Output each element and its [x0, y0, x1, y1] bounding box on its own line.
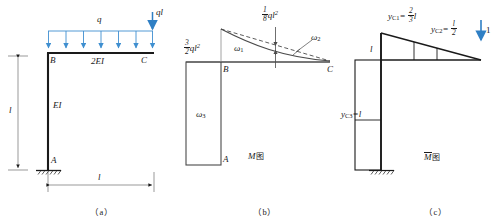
- label-m-diagram: M图: [248, 152, 264, 161]
- label-joint-b-a: B: [50, 56, 56, 65]
- label-dim-horizontal-l: l: [98, 173, 101, 182]
- label-dim-vertical-l: l: [9, 106, 12, 115]
- label-area-omega3: ω3: [196, 110, 206, 120]
- label-unit-load: 1: [486, 26, 491, 35]
- label-joint-c-a: C: [141, 56, 147, 65]
- label-point-load-ql: ql: [156, 8, 163, 17]
- label-end-moment: 3 2 ql2: [184, 39, 200, 56]
- label-area-omega1: ω1: [234, 44, 244, 54]
- fraction-l-over-two: l 2: [451, 20, 457, 37]
- label-beam-stiffness: 2EI: [91, 57, 104, 66]
- caption-a: （a）: [90, 205, 113, 217]
- label-height-l-c: l: [370, 45, 373, 54]
- label-distributed-load-q: q: [97, 15, 102, 24]
- label-yc1: yC1= 2 3 l: [388, 7, 416, 24]
- label-support-a: A: [51, 156, 57, 165]
- label-mbar-diagram: M图: [424, 152, 440, 162]
- label-yc2: yC2= l 2: [431, 20, 457, 37]
- panel-c-geometry: [355, 20, 481, 175]
- figure-root: q ql B C 2EI EI A l l （a） 1 8 ql2 3 2 ql…: [0, 0, 502, 224]
- caption-c: （c）: [424, 205, 447, 217]
- label-yc3: yC3=l: [341, 110, 361, 120]
- label-joint-b-b: B: [223, 65, 229, 74]
- caption-b: （b）: [253, 205, 277, 217]
- label-support-a-b: A: [223, 155, 229, 164]
- panel-a-geometry: [8, 12, 154, 192]
- panel-b-geometry: [186, 27, 330, 165]
- diagram-canvas: [0, 0, 502, 224]
- label-peak-moment: 1 8 ql2: [262, 6, 278, 23]
- label-column-stiffness: EI: [53, 101, 62, 110]
- label-joint-c-b: C: [327, 65, 333, 74]
- label-area-omega2: ω2: [311, 33, 321, 43]
